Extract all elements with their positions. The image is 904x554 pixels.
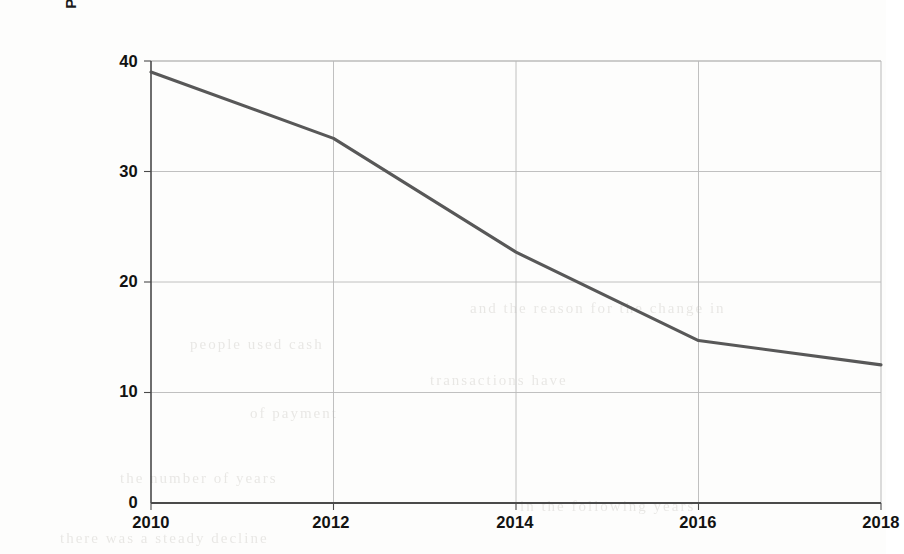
plot-area [40,16,904,554]
gridlines [151,61,881,503]
tick-marks [144,61,881,510]
line-chart: Persentage of people who paid in cash 40… [40,16,904,554]
